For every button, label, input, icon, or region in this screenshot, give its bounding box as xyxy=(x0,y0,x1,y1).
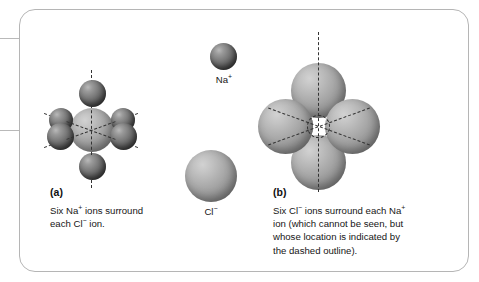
panel-a-sodium-sphere-top xyxy=(79,80,106,107)
panel-a-sodium-sphere-front-left xyxy=(47,123,74,150)
legend-chloride-label-text: Cl xyxy=(204,206,213,217)
legend-chloride-sphere xyxy=(185,150,237,202)
panel-a-central-chloride-sphere xyxy=(70,108,114,152)
panel-a-caption: Six Na+ ions surroundeach Cl− ion. xyxy=(50,204,200,230)
legend-sodium-label-text: Na xyxy=(216,74,228,85)
legend-chloride-label: Cl− xyxy=(183,206,239,217)
panel-a-caption-line2-post: ion. xyxy=(87,218,105,229)
legend-chloride-label-superscript: − xyxy=(214,205,218,212)
panel-a-caption-line2-pre: each Cl xyxy=(50,218,83,229)
nacl-coordination-figure: (a) Six Na+ ions surroundeach Cl− ion. N… xyxy=(0,0,479,282)
panel-a-sodium-sphere-bottom xyxy=(79,153,106,180)
panel-b-caption-line1-superscript-2: + xyxy=(401,204,405,211)
legend-sodium-label: Na+ xyxy=(196,74,252,85)
panel-b-hidden-sodium-dashed-outline xyxy=(307,115,330,138)
legend-sodium-label-superscript: + xyxy=(228,73,232,80)
panel-a-caption-line1-post: ions surround xyxy=(82,205,143,216)
legend-sodium-sphere xyxy=(210,43,237,70)
panel-b-caption: Six Cl− ions surround each Na+ion (which… xyxy=(273,204,453,257)
panel-a-letter: (a) xyxy=(50,186,63,198)
panel-b-caption-line4: the dashed outline). xyxy=(273,245,357,256)
panel-b-chloride-sphere-front-left xyxy=(258,99,313,154)
figure-frame: (a) Six Na+ ions surroundeach Cl− ion. N… xyxy=(19,9,469,272)
panel-a-sodium-sphere-front-right xyxy=(110,123,137,150)
figure-canvas: (a) Six Na+ ions surroundeach Cl− ion. N… xyxy=(20,10,468,271)
panel-b-chloride-sphere-front-right xyxy=(325,99,380,154)
panel-b-caption-line3: whose location is indicated by xyxy=(273,231,400,242)
panel-b-caption-line2: ion (which cannot be seen, but xyxy=(273,218,403,229)
panel-a-caption-line1-pre: Six Na xyxy=(50,205,78,216)
panel-b-caption-line1-pre: Six Cl xyxy=(273,205,298,216)
panel-b-letter: (b) xyxy=(273,186,287,198)
panel-b-caption-line1-mid: ions surround each Na xyxy=(302,205,401,216)
